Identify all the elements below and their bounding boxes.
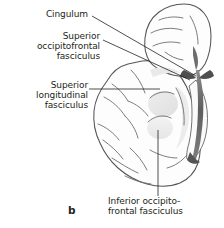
brain-coronal-illustration	[0, 0, 224, 228]
fissure-wing-right	[199, 70, 214, 79]
label-superior-longitudinal-fasciculus: Superior longitudinal fasciculus	[36, 80, 88, 111]
label-superior-occipitofrontal-fasciculus: Superior occipitofrontal fasciculus	[37, 31, 100, 62]
label-inferior-occipitofrontal-fasciculus: Inferior occipito- frontal fasciculus	[108, 196, 183, 216]
anatomy-figure: Cingulum Superior occipitofrontal fascic…	[0, 0, 224, 228]
label-cingulum: Cingulum	[46, 9, 88, 19]
panel-label-b: b	[68, 204, 76, 216]
grey-matter-upper-patch	[148, 91, 178, 117]
grey-matter-lower-patch	[147, 117, 173, 139]
